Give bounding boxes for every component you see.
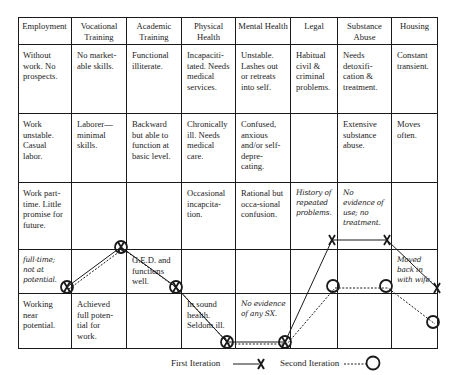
iteration-plot bbox=[0, 0, 453, 375]
legend: First Iteration Second Iteration bbox=[0, 353, 453, 373]
x-marker-icon bbox=[118, 242, 124, 252]
legend-first-label: First Iteration bbox=[171, 358, 220, 368]
legend-first-line-x-icon bbox=[233, 355, 269, 371]
x-marker-icon bbox=[64, 282, 70, 292]
second-iteration-line bbox=[69, 249, 435, 344]
x-marker-icon bbox=[173, 282, 179, 292]
legend-second-label: Second Iteration bbox=[280, 358, 339, 368]
x-marker-icon bbox=[434, 283, 440, 293]
legend-second-line-circle-icon bbox=[344, 353, 384, 373]
circle-marker-icon bbox=[380, 280, 392, 292]
